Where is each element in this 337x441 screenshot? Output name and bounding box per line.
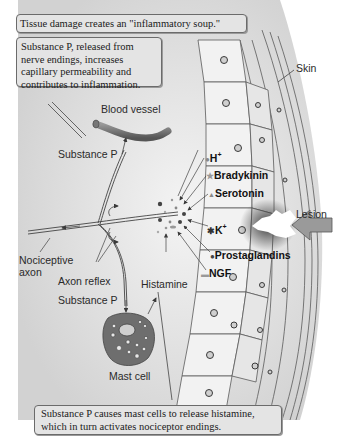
- callout-substance-p: Substance P, released from nerve endings…: [16, 37, 162, 87]
- star-icon: ★: [206, 171, 214, 181]
- label-axon-reflex: Axon reflex: [58, 275, 111, 287]
- callout-inflammatory-soup: Tissue damage creates an "inflammatory s…: [16, 14, 247, 33]
- mediator-k-plus: ✱K+: [207, 223, 227, 236]
- inflammatory-soup-diagram: Tissue damage creates an "inflammatory s…: [0, 0, 337, 441]
- label-blood-vessel: Blood vessel: [101, 103, 161, 115]
- mediator-label: Serotonin: [215, 187, 264, 199]
- callout-text: Tissue damage creates an "inflammatory s…: [20, 18, 220, 29]
- label-nociceptive-axon-1: Nociceptive: [19, 254, 73, 266]
- mediator-bradykinin: ★Bradykinin: [206, 169, 268, 181]
- callout-text: Substance P, released from nerve endings…: [21, 41, 140, 90]
- mediator-charge: +: [223, 223, 227, 230]
- mediator-h-plus: ●H+: [205, 151, 222, 164]
- mediator-prostaglandins: ●Prostaglandins: [210, 249, 291, 261]
- mediator-charge: +: [217, 151, 221, 158]
- mediator-label: Bradykinin: [214, 169, 268, 181]
- dash-icon: ▬: [201, 270, 209, 279]
- label-mast-cell: Mast cell: [109, 370, 150, 382]
- label-substance-p-lower: Substance P: [58, 294, 118, 306]
- triangle-icon: ▲: [208, 191, 215, 198]
- mediator-ngf: ▬NGF: [201, 267, 231, 279]
- mediator-label: K: [215, 224, 223, 236]
- label-lesion: Lesion: [296, 208, 327, 220]
- asterisk-icon: ✱: [207, 226, 215, 236]
- callout-mast-cell-histamine: Substance P causes mast cells to release…: [34, 405, 282, 435]
- callout-text: Substance P causes mast cells to release…: [41, 408, 255, 432]
- label-skin: Skin: [296, 62, 316, 74]
- label-nociceptive-axon-2: axon: [19, 266, 42, 278]
- mediator-serotonin: ▲Serotonin: [208, 187, 264, 199]
- label-histamine: Histamine: [141, 278, 188, 290]
- mediator-label: NGF: [209, 267, 231, 279]
- label-substance-p-upper: Substance P: [58, 148, 118, 160]
- mediator-label: Prostaglandins: [215, 249, 291, 261]
